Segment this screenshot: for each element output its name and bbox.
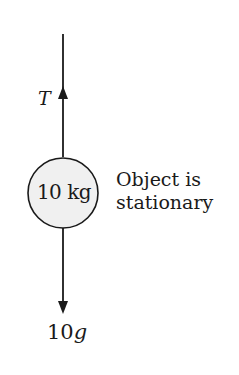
mass-label: 10 kg: [34, 180, 94, 204]
weight-arrowhead-icon: [58, 301, 68, 314]
tension-arrowhead-icon: [58, 86, 68, 99]
state-note-line2: stationary: [116, 191, 213, 214]
weight-label-symbol: g: [74, 320, 87, 344]
weight-label: 10g: [47, 320, 87, 344]
state-note-line1: Object is: [116, 168, 213, 191]
state-note: Object is stationary: [116, 168, 213, 214]
tension-label: T: [38, 87, 51, 109]
weight-label-number: 10: [47, 320, 74, 344]
